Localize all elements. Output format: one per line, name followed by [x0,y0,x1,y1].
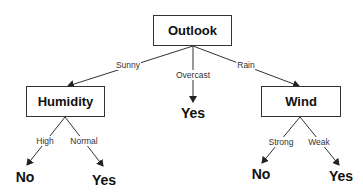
node-wind-label: Wind [285,94,317,109]
edge-label-sunny: Sunny [115,60,141,70]
edge-label-overcast: Overcast [175,70,211,80]
node-outlook: Outlook [153,15,232,46]
edge-label-weak: Weak [307,137,331,147]
leaf-overcast-yes: Yes [181,105,205,121]
leaf-weak-yes: Yes [329,168,353,184]
edge-label-strong: Strong [267,137,294,147]
node-humidity-label: Humidity [38,94,94,109]
node-humidity: Humidity [26,86,105,117]
edge-label-high: High [35,136,54,146]
edge-label-rain: Rain [236,60,255,70]
edge-label-normal: Normal [69,136,98,146]
leaf-high-no: No [16,169,35,185]
node-wind: Wind [261,86,341,117]
node-outlook-label: Outlook [168,23,217,38]
leaf-strong-no: No [252,166,271,182]
leaf-normal-yes: Yes [92,172,116,188]
